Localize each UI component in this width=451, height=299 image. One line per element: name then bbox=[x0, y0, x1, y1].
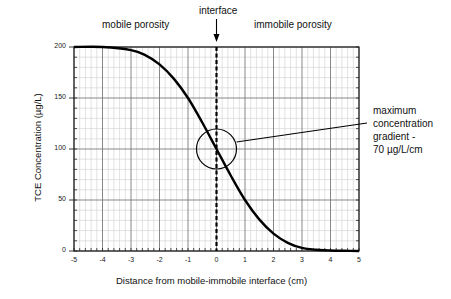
x-axis-label: Distance from mobile-immobile interface … bbox=[116, 275, 307, 286]
y-axis-label: TCE Concentration (µg/L) bbox=[32, 78, 43, 218]
x-tick-label: -3 bbox=[123, 256, 139, 263]
interface-label: interface bbox=[199, 5, 237, 16]
x-tick-label: -2 bbox=[152, 256, 168, 263]
x-tick-label: 2 bbox=[266, 256, 282, 263]
annotation-line-1: maximum bbox=[373, 104, 433, 117]
x-tick-label: 3 bbox=[294, 256, 310, 263]
annotation-line-4: 70 µg/L/cm bbox=[373, 143, 433, 156]
y-tick-label: 50 bbox=[42, 195, 66, 202]
x-tick-label: -5 bbox=[66, 256, 82, 263]
left-region-label: mobile porosity bbox=[102, 19, 169, 30]
annotation-line-3: gradient - bbox=[373, 130, 433, 143]
right-region-label: immobile porosity bbox=[254, 19, 332, 30]
y-tick-label: 100 bbox=[42, 144, 66, 151]
x-tick-label: -1 bbox=[180, 256, 196, 263]
annotation-line-2: concentration bbox=[373, 117, 433, 130]
x-tick-label: 0 bbox=[209, 256, 225, 263]
x-tick-label: 1 bbox=[237, 256, 253, 263]
y-tick-label: 200 bbox=[42, 42, 66, 49]
interface-arrow-icon bbox=[214, 19, 220, 42]
x-tick-label: -4 bbox=[95, 256, 111, 263]
y-tick-label: 0 bbox=[42, 246, 66, 253]
x-tick-label: 4 bbox=[323, 256, 339, 263]
y-tick-label: 150 bbox=[42, 93, 66, 100]
gradient-annotation: maximum concentration gradient - 70 µg/L… bbox=[373, 104, 433, 156]
x-tick-label: 5 bbox=[351, 256, 367, 263]
